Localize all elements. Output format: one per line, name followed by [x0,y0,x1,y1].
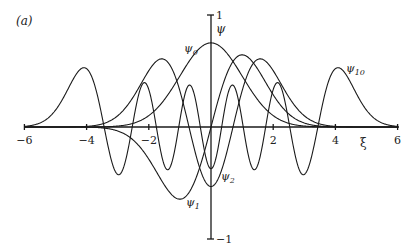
y-tick-label-bottom: −1 [216,233,232,246]
x-axis-label: ξ [360,136,367,150]
label-psi2: ψ2 [221,170,235,185]
label-psi10: ψ10 [346,62,365,77]
x-tick-label: 4 [332,134,339,147]
label-psi0: ψ0 [184,42,198,57]
x-tick-label: −6 [16,134,32,147]
x-tick-label: −4 [78,134,94,147]
y-tick-label-top: 1 [216,9,223,22]
panel-label: (a) [16,14,33,28]
label-psi1: ψ1 [186,196,200,211]
x-tick-label: 6 [394,134,401,147]
x-tick-label: −2 [141,134,157,147]
x-tick-label: 2 [270,134,277,147]
wavefunction-chart: (a) −6−4−2246 1 −1 ψ ξ ψ0 ψ1 ψ2 ψ10 [0,0,412,251]
y-axis-label: ψ [216,22,226,36]
